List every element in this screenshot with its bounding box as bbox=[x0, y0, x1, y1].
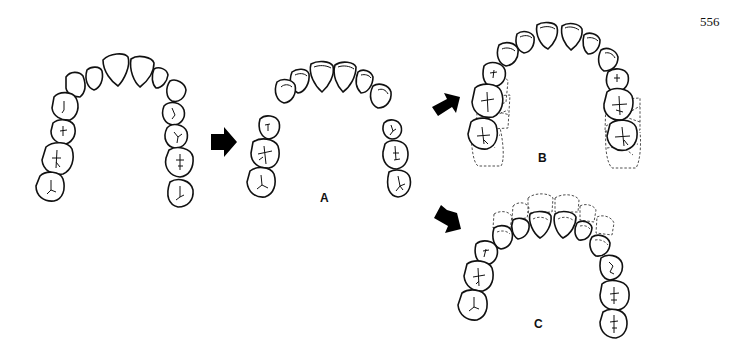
panel-c-dental-arch bbox=[458, 194, 629, 338]
arrow-up-right-icon bbox=[432, 93, 460, 116]
dental-arch-diagram: A bbox=[0, 0, 745, 354]
arrow-right-icon bbox=[211, 127, 237, 157]
panel-a-label: A bbox=[320, 191, 329, 205]
arrow-down-right-icon bbox=[434, 205, 461, 233]
panel-b-dental-arch bbox=[468, 23, 641, 168]
panel-a-dental-arch bbox=[247, 62, 410, 198]
panel-b-label: B bbox=[538, 151, 547, 165]
original-dental-arch bbox=[36, 54, 193, 207]
panel-c-label: C bbox=[534, 317, 543, 331]
